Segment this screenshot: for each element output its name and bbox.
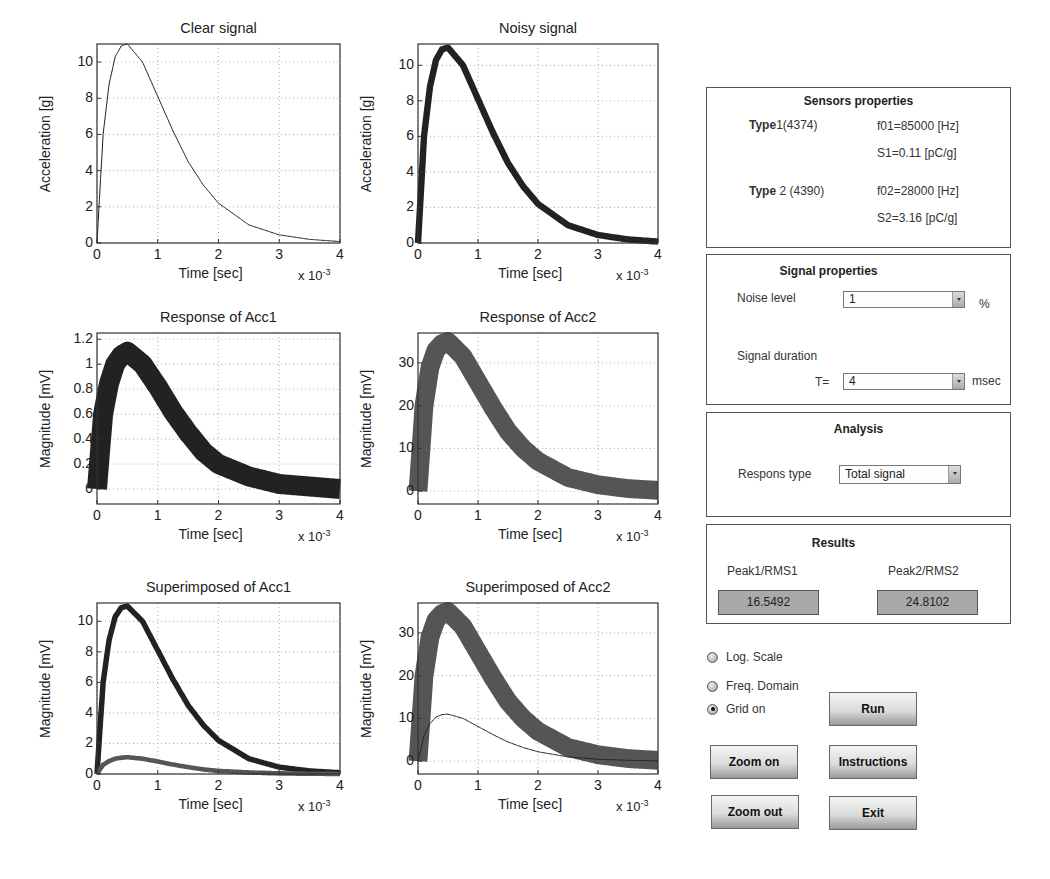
response-type-select[interactable]: Total signal [839, 465, 961, 484]
y-axis-label: Magnitude [mV] [37, 639, 53, 737]
y-tick-label: 2 [85, 198, 93, 214]
x-axis-exponent: x 10-3 [616, 528, 649, 544]
y-tick-label: 0 [406, 482, 414, 498]
sensor-f01: f01=85000 [Hz] [877, 119, 959, 133]
y-tick-label: 6 [85, 673, 93, 689]
zoom-out-button[interactable]: Zoom out [711, 795, 799, 829]
x-tick-label: 1 [148, 777, 168, 793]
grid-on-label: Grid on [726, 702, 765, 716]
plot-title: Noisy signal [418, 20, 658, 36]
x-tick-label: 2 [209, 777, 229, 793]
noise-level-label: Noise level [737, 291, 796, 305]
plot-title: Superimposed of Acc2 [418, 579, 658, 595]
run-button[interactable]: Run [829, 692, 917, 726]
sensor-type2-label: Type 2 (4390) [749, 184, 824, 198]
plot-sup2: Superimposed of Acc2012340102030Time [se… [348, 573, 698, 834]
freq-domain-label: Freq. Domain [726, 679, 799, 693]
x-axis-label: Time [sec] [498, 796, 562, 812]
log-scale-label: Log. Scale [726, 650, 783, 664]
chevron-down-icon[interactable] [952, 292, 964, 307]
x-tick-label: 3 [269, 507, 289, 523]
results-title: Results [657, 536, 1010, 550]
plot-title: Response of Acc1 [97, 309, 340, 325]
y-axis-label: Acceleration [g] [358, 95, 374, 192]
y-tick-label: 0 [85, 234, 93, 250]
signal-properties-panel: Signal properties Noise level 1 % Signal… [706, 254, 1011, 405]
y-tick-label: 0 [406, 752, 414, 768]
t-label: T= [815, 375, 829, 389]
y-tick-label: 4 [85, 704, 93, 720]
sensors-properties-panel: Sensors properties Type1(4374) f01=85000… [706, 87, 1011, 248]
y-tick-label: 20 [398, 397, 414, 413]
x-axis-label: Time [sec] [179, 526, 243, 542]
peak1-rms1-value: 16.5492 [718, 590, 819, 615]
plot-resp2: Response of Acc2012340102030Time [sec]x … [348, 303, 698, 564]
sensor-s2: S2=3.16 [pC/g] [877, 211, 957, 225]
y-tick-label: 20 [398, 667, 414, 683]
x-tick-label: 2 [209, 246, 229, 262]
plot-title: Response of Acc2 [418, 309, 658, 325]
x-tick-label: 1 [148, 507, 168, 523]
chevron-down-icon[interactable] [948, 466, 960, 483]
radio-icon[interactable] [707, 652, 718, 663]
x-axis-label: Time [sec] [498, 526, 562, 542]
x-tick-label: 0 [408, 507, 428, 523]
plot-noisy: Noisy signal012340246810Time [sec]x 10-3… [348, 14, 698, 303]
y-tick-label: 8 [85, 89, 93, 105]
x-tick-label: 1 [468, 777, 488, 793]
noise-level-value: 1 [849, 292, 856, 306]
x-tick-label: 4 [648, 777, 668, 793]
x-tick-label: 1 [468, 246, 488, 262]
x-tick-label: 4 [330, 777, 350, 793]
x-tick-label: 1 [148, 246, 168, 262]
y-tick-label: 2 [406, 198, 414, 214]
instructions-button[interactable]: Instructions [829, 745, 917, 779]
x-axis-exponent: x 10-3 [616, 798, 649, 814]
signal-duration-select[interactable]: 4 [843, 373, 965, 390]
plot-title: Superimposed of Acc1 [97, 579, 340, 595]
y-tick-label: 1 [85, 355, 93, 371]
x-tick-label: 3 [269, 246, 289, 262]
radio-selected-icon[interactable] [707, 704, 718, 715]
x-tick-label: 2 [528, 777, 548, 793]
peak1-rms1-label: Peak1/RMS1 [727, 564, 798, 578]
y-tick-label: 6 [85, 125, 93, 141]
y-tick-label: 0.6 [74, 405, 93, 421]
x-tick-label: 0 [408, 777, 428, 793]
signal-duration-label: Signal duration [737, 349, 817, 363]
x-axis-exponent: x 10-3 [298, 267, 331, 283]
radio-icon[interactable] [707, 681, 718, 692]
x-tick-label: 4 [330, 246, 350, 262]
chevron-down-icon[interactable] [952, 374, 964, 389]
plot-sup1: Superimposed of Acc1012340246810Time [se… [27, 573, 380, 834]
y-tick-label: 0 [85, 480, 93, 496]
y-tick-label: 4 [406, 163, 414, 179]
x-axis-label: Time [sec] [498, 265, 562, 281]
y-axis-label: Magnitude [mV] [358, 369, 374, 467]
x-tick-label: 4 [648, 246, 668, 262]
y-axis-label: Acceleration [g] [37, 95, 53, 192]
y-tick-label: 8 [85, 643, 93, 659]
peak2-rms2-value: 24.8102 [877, 590, 978, 615]
y-tick-label: 10 [398, 56, 414, 72]
y-tick-label: 8 [406, 92, 414, 108]
grid-on-option[interactable]: Grid on [707, 702, 765, 716]
x-axis-label: Time [sec] [179, 796, 243, 812]
plot-clear: Clear signal012340246810Time [sec]x 10-3… [27, 14, 380, 303]
y-tick-label: 0 [85, 765, 93, 781]
x-tick-label: 4 [648, 507, 668, 523]
exit-button[interactable]: Exit [829, 796, 917, 830]
log-scale-option[interactable]: Log. Scale [707, 650, 783, 664]
x-axis-exponent: x 10-3 [616, 267, 649, 283]
zoom-on-button[interactable]: Zoom on [710, 745, 798, 779]
results-panel: Results Peak1/RMS1 Peak2/RMS2 16.5492 24… [706, 524, 1011, 624]
y-tick-label: 1.2 [74, 330, 93, 346]
x-tick-label: 3 [588, 777, 608, 793]
freq-domain-option[interactable]: Freq. Domain [707, 679, 799, 693]
x-tick-label: 3 [588, 246, 608, 262]
noise-level-select[interactable]: 1 [843, 291, 965, 308]
signal-properties-title: Signal properties [647, 264, 1010, 278]
sensor-type1-label: Type1(4374) [749, 118, 818, 132]
y-tick-label: 0.2 [74, 455, 93, 471]
analysis-panel: Analysis Respons type Total signal [706, 412, 1011, 517]
